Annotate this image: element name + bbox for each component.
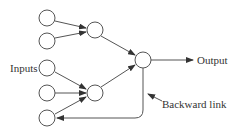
hidden-node-2: [87, 85, 103, 101]
edge-h2-out: [101, 65, 135, 87]
rnn-diagram: Inputs Output Backward link: [0, 0, 235, 129]
edge-in5-h2: [55, 97, 86, 114]
backward-link-pointer: [148, 94, 162, 101]
edge-h1-out: [101, 36, 135, 55]
input-node-4: [39, 85, 55, 101]
output-node: [135, 52, 151, 68]
input-node-1: [39, 10, 55, 26]
input-node-5: [39, 110, 55, 126]
edge-in2-h1: [55, 32, 86, 38]
input-node-2: [39, 33, 55, 49]
input-node-3: [39, 60, 55, 76]
edge-in1-h1: [55, 21, 86, 28]
hidden-node-1: [87, 22, 103, 38]
edge-in3-h2: [55, 72, 86, 89]
backward-link-label: Backward link: [162, 98, 227, 110]
output-label: Output: [197, 54, 228, 66]
inputs-label: Inputs: [10, 62, 38, 74]
